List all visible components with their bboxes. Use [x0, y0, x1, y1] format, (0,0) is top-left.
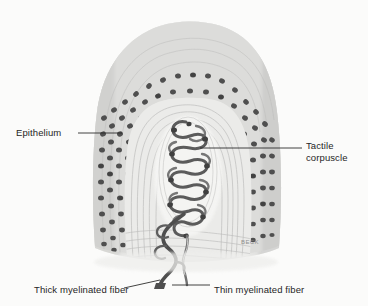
label-thick-myelinated-fiber: Thick myelinated fiber [34, 284, 129, 296]
artist-signature: BECK [241, 239, 259, 245]
label-tactile-line1: Tactile [306, 140, 334, 151]
fiber-terminal [154, 283, 166, 289]
label-tactile-line2: corpuscle [306, 152, 348, 163]
leader-thick-fiber [124, 280, 160, 288]
label-thin-myelinated-fiber: Thin myelinated fiber [214, 284, 304, 296]
label-tactile-corpuscle: Tactilecorpuscle [306, 140, 366, 163]
label-epithelium: Epithelium [16, 127, 61, 139]
tactile-corpuscle-figure: Epithelium Tactilecorpuscle Thick myelin… [0, 0, 368, 306]
